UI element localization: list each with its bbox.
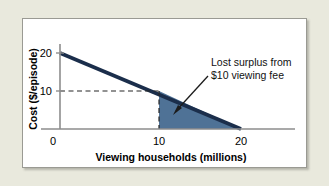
y-axis-title: Cost ($/episode)	[27, 48, 39, 130]
chart-canvas: 20 10 0 10 20 Cost ($/episode) Viewing h…	[23, 19, 306, 167]
lost-surplus-arrow-shaft	[176, 76, 208, 111]
figure-panel: 20 10 0 10 20 Cost ($/episode) Viewing h…	[22, 18, 307, 168]
x-axis-title: Viewing households (millions)	[96, 151, 247, 163]
lost-surplus-annotation-line2: $10 viewing fee	[211, 69, 284, 81]
lost-surplus-annotation-line1: Lost surplus from	[211, 56, 292, 68]
x-tick-label-20: 20	[235, 135, 247, 147]
y-tick-label-10: 10	[40, 85, 52, 97]
x-tick-label-10: 10	[153, 135, 165, 147]
x-tick-label-0: 0	[50, 135, 56, 147]
y-tick-label-20: 20	[40, 47, 52, 59]
